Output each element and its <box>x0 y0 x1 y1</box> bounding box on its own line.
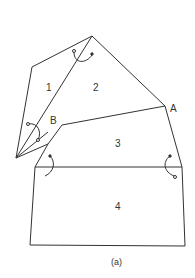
hinge-arc-top <box>74 52 92 61</box>
diagram-canvas <box>0 0 195 278</box>
hinge-arc-left <box>45 156 53 176</box>
hinge-pin-top <box>73 50 76 53</box>
region-label-1: 1 <box>46 83 52 93</box>
region-label-3: 3 <box>115 139 121 149</box>
region-4-outline <box>30 167 185 246</box>
edge-notch-down <box>35 144 48 167</box>
hinge-arc-right <box>165 156 174 176</box>
edge-left-to-b <box>16 132 48 158</box>
edge-a-to-b <box>48 106 165 144</box>
point-label-a: A <box>170 104 177 114</box>
hinge-pin-right <box>174 176 177 179</box>
region-label-4: 4 <box>115 202 121 212</box>
edge-diagonal-1-2 <box>16 36 92 158</box>
hinge-arc-b <box>28 124 40 140</box>
hinge-pin-b <box>27 123 30 126</box>
region-label-2: 2 <box>93 83 99 93</box>
point-label-b: B <box>50 116 57 126</box>
figure-caption: (a) <box>111 258 122 267</box>
